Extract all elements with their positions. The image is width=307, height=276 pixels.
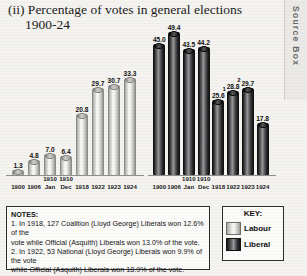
legend-item-liberal: Liberal [226, 238, 280, 251]
bar-value-label: 29.7 [92, 80, 105, 87]
bar-column: 20.8 [77, 106, 87, 176]
x-axis-tick-label: 1900 [10, 183, 26, 190]
bar-column: 33.3 [125, 70, 135, 176]
bar-labour [92, 88, 104, 176]
bar-column: 30.7 [109, 77, 119, 176]
bar-value-label: 1.3 [13, 162, 22, 169]
bar-top-cap [29, 159, 39, 165]
notes-line-1: 1. In 1918, 127 Coalition (Lloyd George)… [11, 219, 205, 238]
chart-labour: 1.34.87.06.420.829.730.733.3 19001906191… [6, 26, 144, 198]
x-axis-tick-label: 1918 [74, 183, 90, 190]
x-axis-tick-label: 1922 [226, 183, 241, 190]
bar-liberal [212, 100, 224, 176]
bar-labour [44, 154, 56, 176]
bar-top-cap [93, 87, 103, 93]
bar-labour [28, 160, 40, 176]
bar-top-cap [184, 48, 194, 54]
x-axis-tick-label: 1923 [106, 183, 122, 190]
bar-top-cap [154, 43, 164, 49]
source-box-tab: Source Box [284, 0, 307, 100]
x-axis-tick-label: 1906 [26, 183, 42, 190]
bar-top-cap [61, 155, 71, 161]
bar-value-label: 6.4 [61, 148, 70, 155]
plot-area-liberal: 45.049.443.544.225.6128.8229.717.8 [148, 26, 276, 176]
figure-root: (ii) Percentage of votes in general elec… [0, 0, 307, 276]
x-axis-tick-sublabel: Dec [196, 183, 211, 190]
bar-column: 7.0 [45, 146, 55, 176]
bar-liberal [257, 123, 269, 176]
bar-value-label: 28.82 [227, 83, 240, 90]
bar-column: 45.0 [154, 36, 164, 176]
bar-column: 28.82 [228, 83, 238, 176]
x-axis-tick-label: 1924 [122, 183, 138, 190]
bar-column: 49.4 [169, 24, 179, 177]
notes-line-2: vote while Official (Asquith) Liberals w… [11, 238, 205, 247]
x-axis-tick-label: 1924 [255, 183, 270, 190]
bar-top-cap [243, 87, 253, 93]
bar-footnote-marker: 1 [222, 86, 225, 93]
bar-value-label: 25.61 [212, 92, 225, 99]
bar-value-label: 45.0 [153, 36, 166, 43]
notes-box: NOTES: 1. In 1918, 127 Coalition (Lloyd … [6, 206, 210, 270]
legend-key-box: KEY: Labour Liberal [222, 206, 284, 261]
notes-line-3: 2. In 1922, 53 National (Lloyd George) L… [11, 247, 205, 266]
bar-top-cap [109, 84, 119, 90]
bar-labour [60, 156, 72, 176]
bar-labour [76, 114, 88, 176]
bar-value-label: 29.7 [241, 80, 254, 87]
x-axis-tick-label: 1910Dec [196, 175, 211, 190]
bar-liberal [227, 91, 239, 176]
bar-column: 1.3 [13, 162, 23, 176]
plot-area-labour: 1.34.87.06.420.829.730.733.3 [6, 26, 144, 176]
x-axis-tick-sublabel: Dec [58, 183, 74, 190]
notes-line-4: while Official (Asquith) Liberals won 18… [11, 265, 205, 274]
bar-column: 43.5 [184, 41, 194, 176]
x-axis-tick-label: 1910Dec [58, 175, 74, 190]
x-axis-tick-sublabel: Jan [42, 183, 58, 190]
bar-liberal [168, 32, 180, 177]
x-axis-tick-label: 1922 [90, 183, 106, 190]
bar-column: 29.7 [93, 80, 103, 176]
x-axis-tick-label: 1918 [211, 183, 226, 190]
x-axis-tick-label: 1910Jan [182, 175, 197, 190]
x-axis-labels-labour: 190019061910Jan1910Dec1918192219231924 [6, 176, 144, 198]
legend-label-labour: Labour [244, 224, 271, 234]
figure-title-line1: (ii) Percentage of votes in general elec… [8, 2, 242, 17]
bar-value-label: 20.8 [76, 106, 89, 113]
x-axis-tick-label: 1906 [167, 183, 182, 190]
bar-top-cap [199, 46, 209, 52]
source-box-label: Source Box [291, 6, 301, 66]
bar-top-cap [45, 153, 55, 159]
bar-liberal [153, 44, 165, 176]
bar-top-cap [77, 113, 87, 119]
x-axis-tick-label: 1900 [152, 183, 167, 190]
bar-top-cap [125, 77, 135, 83]
x-axis-tick-sublabel: Jan [182, 183, 197, 190]
bar-value-label: 43.5 [182, 41, 195, 48]
chart-liberal: 45.049.443.544.225.6128.8229.717.8 19001… [148, 26, 276, 198]
legend-label-liberal: Liberal [244, 240, 270, 250]
bar-value-label: 49.4 [168, 24, 181, 31]
bar-value-label: 44.2 [197, 39, 210, 46]
bar-liberal [183, 49, 195, 176]
legend-item-labour: Labour [226, 222, 280, 235]
bar-value-label: 30.7 [108, 77, 121, 84]
x-axis-tick-label: 1910Jan [42, 175, 58, 190]
bar-column: 29.7 [243, 80, 253, 176]
bar-top-cap [228, 90, 238, 96]
charts-area: 1.34.87.06.420.829.730.733.3 19001906191… [0, 26, 280, 198]
bar-liberal [198, 47, 210, 177]
bar-value-label: 33.3 [124, 70, 137, 77]
x-axis-labels-liberal: 190019061910Jan1910Dec1918192219231924 [148, 176, 276, 198]
bar-top-cap [169, 31, 179, 37]
legend-swatch-liberal-icon [226, 238, 241, 251]
x-axis-tick-label: 1923 [241, 183, 256, 190]
bar-top-cap [258, 122, 268, 128]
bar-column: 44.2 [199, 39, 209, 177]
notes-heading: NOTES: [11, 210, 205, 219]
bar-footnote-marker: 2 [237, 77, 240, 84]
bar-liberal [242, 88, 254, 176]
legend-heading: KEY: [244, 209, 263, 219]
bar-top-cap [213, 99, 223, 105]
bar-column: 6.4 [61, 148, 71, 176]
